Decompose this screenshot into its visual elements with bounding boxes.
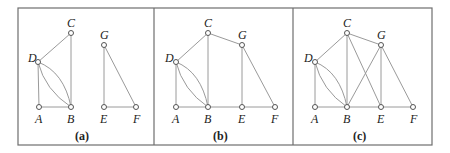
label-g: G [100, 28, 109, 42]
node-a [37, 105, 42, 110]
caption-b: (b) [213, 129, 228, 143]
caption-c: (c) [353, 129, 366, 143]
label-c: C [204, 16, 213, 30]
node-c [69, 31, 74, 36]
panel-b: A B C D E F G (b) [164, 16, 279, 143]
label-d: D [303, 51, 313, 65]
node-d [313, 60, 318, 65]
edges [38, 33, 136, 107]
node-f [273, 105, 278, 110]
label-f: F [409, 112, 418, 126]
label-g: G [377, 28, 386, 42]
node-g [379, 43, 384, 48]
edges [315, 33, 413, 107]
label-c: C [67, 16, 76, 30]
node-f [134, 105, 139, 110]
label-d: D [164, 51, 174, 65]
graph-figure: A B C D E F G (a) [0, 0, 450, 153]
edges [176, 33, 275, 107]
label-e: E [376, 112, 385, 126]
label-f: F [270, 112, 279, 126]
figure-frame [18, 8, 432, 145]
panel-a: A B C D E F G (a) [27, 16, 141, 143]
node-c [206, 31, 211, 36]
label-a: A [310, 112, 319, 126]
node-b [69, 105, 74, 110]
label-b: B [67, 112, 75, 126]
label-d: D [27, 51, 37, 65]
label-b: B [204, 112, 212, 126]
labels: A B C D E F G (c) [303, 16, 418, 143]
label-g: G [238, 28, 247, 42]
label-c: C [343, 16, 352, 30]
node-e [379, 105, 384, 110]
node-e [240, 105, 245, 110]
node-a [174, 105, 179, 110]
label-e: E [237, 112, 246, 126]
node-c [345, 31, 350, 36]
node-g [240, 43, 245, 48]
node-b [345, 105, 350, 110]
node-f [411, 105, 416, 110]
labels: A B C D E F G (b) [164, 16, 279, 143]
label-f: F [132, 112, 141, 126]
node-b [206, 105, 211, 110]
panel-c: A B C D E F G (c) [303, 16, 418, 143]
caption-a: (a) [75, 129, 89, 143]
labels: A B C D E F G (a) [27, 16, 141, 143]
node-a [313, 105, 318, 110]
node-d [174, 60, 179, 65]
label-b: B [343, 112, 351, 126]
label-a: A [34, 112, 43, 126]
label-a: A [171, 112, 180, 126]
label-e: E [99, 112, 108, 126]
node-e [102, 105, 107, 110]
node-g [102, 43, 107, 48]
